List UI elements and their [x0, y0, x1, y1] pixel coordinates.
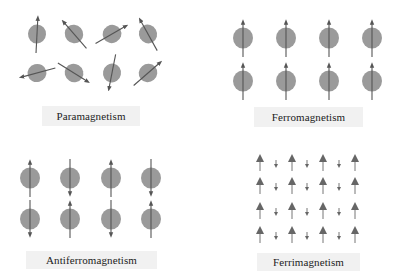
large-up-spin-icon: [351, 177, 359, 194]
atom-with-spin-arrow: [60, 159, 80, 194]
atom-with-spin-arrow: [141, 159, 161, 194]
small-down-spin-icon: [274, 183, 278, 191]
small-down-spin-icon: [274, 208, 278, 216]
ferromagnetism-label: Ferromagnetism: [254, 107, 363, 127]
atom-with-spin-arrow: [132, 16, 165, 55]
paramagnetism-label: Paramagnetism: [42, 106, 140, 126]
large-up-spin-icon: [288, 202, 296, 219]
ferromagnetism-panel: [233, 22, 382, 100]
small-down-spin-icon: [337, 208, 341, 216]
small-down-spin-icon: [274, 160, 278, 168]
large-up-spin-icon: [288, 177, 296, 194]
large-up-spin-icon: [256, 177, 264, 194]
large-up-spin-icon: [256, 154, 264, 171]
small-down-spin-icon: [337, 232, 341, 240]
small-down-spin-icon: [337, 183, 341, 191]
atom-with-spin-arrow: [19, 59, 57, 85]
atom-with-spin-arrow: [20, 200, 40, 235]
large-up-spin-icon: [256, 202, 264, 219]
atom-with-spin-arrow: [141, 203, 161, 238]
magnetism-diagram: Paramagnetism Ferromagnetism Antiferroma…: [0, 0, 400, 278]
atom-with-spin-arrow: [101, 200, 121, 235]
small-down-spin-icon: [274, 232, 278, 240]
large-up-spin-icon: [319, 177, 327, 194]
atom-with-spin-arrow: [53, 55, 92, 89]
atom-with-spin-arrow: [91, 18, 130, 51]
small-down-spin-icon: [305, 208, 309, 216]
small-down-spin-icon: [305, 232, 309, 240]
magnetic-ordering-figure: [0, 0, 400, 278]
large-up-spin-icon: [256, 226, 264, 243]
atom-with-spin-arrow: [276, 22, 296, 57]
atom-with-spin-arrow: [57, 16, 94, 54]
atom-with-spin-arrow: [233, 22, 253, 57]
atom-with-spin-arrow: [101, 162, 121, 197]
atom-with-spin-arrow: [319, 65, 339, 100]
large-up-spin-icon: [351, 154, 359, 171]
large-up-spin-icon: [288, 154, 296, 171]
atom-with-spin-arrow: [60, 203, 80, 238]
large-up-spin-icon: [319, 154, 327, 171]
large-up-spin-icon: [351, 202, 359, 219]
large-up-spin-icon: [319, 202, 327, 219]
antiferromagnetism-label: Antiferromagnetism: [26, 251, 157, 269]
small-down-spin-icon: [337, 160, 341, 168]
small-down-spin-icon: [305, 183, 309, 191]
atom-with-spin-arrow: [100, 53, 124, 91]
paramagnetism-panel: [19, 16, 166, 93]
large-up-spin-icon: [319, 226, 327, 243]
antiferromagnetism-panel: [20, 159, 161, 238]
atom-with-spin-arrow: [128, 56, 166, 93]
small-down-spin-icon: [305, 160, 309, 168]
ferrimagnetism-panel: [256, 154, 359, 243]
atom-with-spin-arrow: [319, 22, 339, 57]
atom-with-spin-arrow: [362, 65, 382, 100]
atom-with-spin-arrow: [20, 162, 40, 197]
large-up-spin-icon: [288, 226, 296, 243]
atom-with-spin-arrow: [233, 65, 253, 100]
atom-with-spin-arrow: [27, 18, 47, 54]
ferrimagnetism-label: Ferrimagnetism: [257, 253, 360, 271]
atom-with-spin-arrow: [276, 65, 296, 100]
atom-with-spin-arrow: [362, 22, 382, 57]
large-up-spin-icon: [351, 226, 359, 243]
